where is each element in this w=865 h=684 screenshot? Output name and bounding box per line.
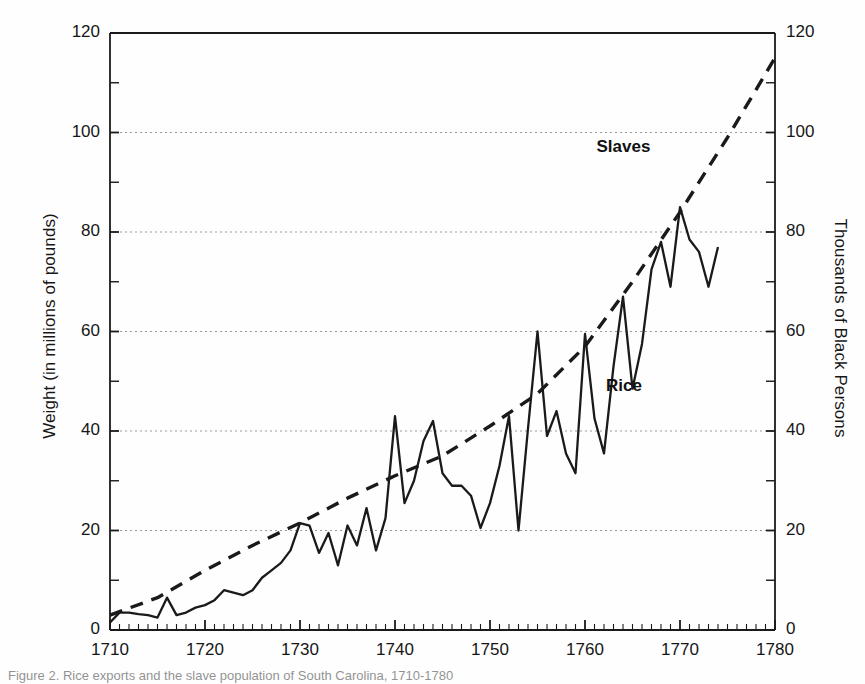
y-axis-right-tick-20: 20 [786, 520, 832, 540]
rice-label: Rice [606, 376, 642, 396]
x-axis-tick-1770: 1770 [648, 640, 712, 660]
y-axis-right-tick-100: 100 [786, 122, 832, 142]
x-axis-tick-1710: 1710 [78, 640, 142, 660]
x-axis-tick-1780: 1780 [743, 640, 807, 660]
y-axis-left-tick-40: 40 [54, 420, 100, 440]
plot-svg [0, 0, 865, 684]
y-axis-right-tick-120: 120 [786, 22, 832, 42]
y-axis-left-tick-100: 100 [54, 122, 100, 142]
y-axis-left-tick-20: 20 [54, 520, 100, 540]
y-axis-left-tick-60: 60 [54, 321, 100, 341]
slaves-label: Slaves [597, 137, 651, 157]
figure-caption: Figure 2. Rice exports and the slave pop… [8, 668, 628, 683]
y-axis-right-tick-60: 60 [786, 321, 832, 341]
chart-figure: Weight (in millions of pounds) Thousands… [0, 0, 865, 684]
x-axis-tick-1760: 1760 [553, 640, 617, 660]
series-line-rice [110, 207, 718, 622]
x-axis-tick-1720: 1720 [173, 640, 237, 660]
y-axis-right-tick-0: 0 [786, 619, 832, 639]
x-axis-tick-1740: 1740 [363, 640, 427, 660]
x-axis-tick-1730: 1730 [268, 640, 332, 660]
y-axis-left-tick-0: 0 [54, 619, 100, 639]
y-axis-right-tick-40: 40 [786, 420, 832, 440]
y-axis-left-tick-120: 120 [54, 22, 100, 42]
y-axis-right-tick-80: 80 [786, 221, 832, 241]
x-axis-tick-1750: 1750 [458, 640, 522, 660]
series-line-slaves [110, 58, 775, 615]
plot-area-wrapper: Weight (in millions of pounds) Thousands… [0, 0, 865, 684]
y-axis-left-tick-80: 80 [54, 221, 100, 241]
